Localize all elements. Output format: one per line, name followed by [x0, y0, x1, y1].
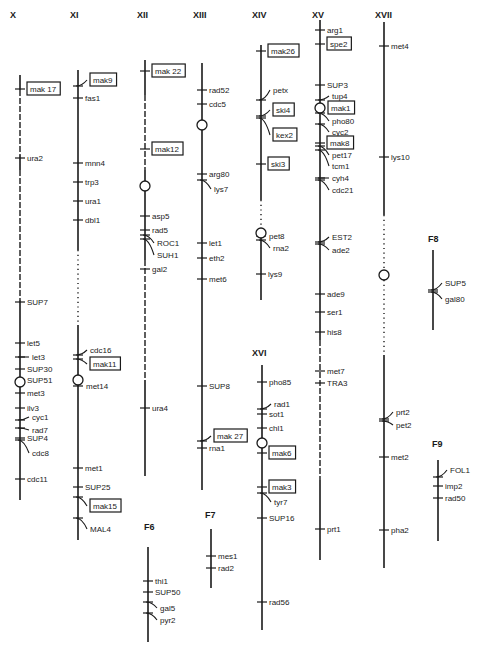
chromosome-label: XIV — [252, 10, 267, 20]
gene-label: ade9 — [327, 290, 345, 299]
gene-label: pet17 — [332, 151, 353, 160]
gene-label: pho85 — [269, 378, 292, 387]
gene-locus: let1 — [197, 239, 222, 248]
chromosome-xvii: XVIImet4lys10prt2pet2met2pha2 — [375, 10, 412, 568]
gene-label: kex2 — [276, 131, 293, 140]
gene-locus: mak26 — [256, 44, 299, 57]
gene-label: tcm1 — [332, 162, 350, 171]
gene-label: rna1 — [209, 444, 226, 453]
gene-locus: let5 — [15, 339, 40, 348]
gene-label: SUP51 — [27, 376, 53, 385]
gene-label: SUP16 — [269, 514, 295, 523]
gene-label: pyr2 — [160, 616, 176, 625]
gene-locus: trp3 — [73, 178, 99, 187]
gene-label: lys9 — [268, 270, 283, 279]
gene-label: SUP7 — [27, 298, 48, 307]
gene-label: arg1 — [327, 26, 344, 35]
gene-label: met7 — [327, 367, 345, 376]
gene-label: mak15 — [93, 502, 118, 511]
gene-label: rad1 — [274, 400, 291, 409]
gene-locus: ROC1 — [140, 235, 180, 248]
gene-label: SUP8 — [209, 382, 230, 391]
gene-label: cdc16 — [90, 346, 112, 355]
centromere-icon — [315, 103, 325, 113]
gene-label: lys7 — [214, 185, 229, 194]
chromosome-f8: F8SUP5gal80 — [428, 234, 466, 330]
gene-locus: chl1 — [257, 424, 284, 433]
gene-label: EST2 — [332, 233, 353, 242]
gene-label: mak6 — [272, 449, 292, 458]
gene-label: rad2 — [218, 564, 235, 573]
gene-locus: mak15 — [73, 497, 121, 512]
gene-label: ura1 — [85, 197, 102, 206]
gene-label: prt1 — [327, 525, 341, 534]
gene-label: met6 — [209, 275, 227, 284]
gene-locus: mak 17 — [15, 82, 60, 95]
gene-label: arg80 — [209, 170, 230, 179]
gene-locus: mak11 — [73, 357, 120, 370]
chromosome-xii: XIImak 22mak12asp5rad5ROC1SUH1gal2ura4 — [137, 10, 185, 476]
chromosome-label: F9 — [432, 439, 443, 449]
chromosome-label: XIII — [193, 10, 207, 20]
gene-locus: prt1 — [315, 525, 341, 534]
gene-locus: kex2 — [256, 118, 297, 141]
gene-label: let1 — [209, 239, 222, 248]
gene-label: ski3 — [271, 160, 286, 169]
gene-locus: mak 27 — [197, 429, 247, 442]
gene-label: rna2 — [273, 244, 290, 253]
chromosome-label: XV — [312, 10, 324, 20]
gene-label: petx — [273, 86, 288, 95]
chromosome-label: XI — [70, 10, 79, 20]
gene-label: gal5 — [160, 604, 176, 613]
gene-label: cyc1 — [32, 413, 49, 422]
gene-label: mak 22 — [155, 67, 182, 76]
gene-label: mak11 — [93, 360, 117, 369]
chromosome-xvi: XVIpho85rad1sot1chl1mak6mak3tyr7SUP16rad… — [252, 348, 296, 630]
gene-label: pha2 — [391, 526, 409, 535]
gene-label: SUP5 — [445, 279, 466, 288]
gene-locus: lys9 — [256, 270, 283, 279]
gene-label: rad56 — [269, 598, 290, 607]
centromere-icon — [197, 120, 207, 130]
gene-label: mes1 — [218, 552, 238, 561]
gene-label: met1 — [85, 464, 103, 473]
gene-label: chl1 — [269, 424, 284, 433]
gene-locus: mak 22 — [140, 64, 185, 77]
gene-label: ski4 — [276, 106, 291, 115]
gene-label: rad5 — [152, 226, 169, 235]
gene-label: ade2 — [332, 246, 350, 255]
gene-label: MAL4 — [90, 525, 111, 534]
chromosome-label: XII — [137, 10, 148, 20]
gene-label: gal2 — [152, 265, 168, 274]
chromosome-f6: F6thi1SUP50gal5pyr2 — [143, 522, 181, 642]
gene-label: met14 — [86, 382, 109, 391]
centromere-icon — [73, 375, 83, 385]
chromosome-label: F8 — [428, 234, 439, 244]
gene-label: ROC1 — [157, 239, 180, 248]
gene-label: let3 — [32, 353, 45, 362]
centromere-icon — [257, 438, 267, 448]
chromosome-label: X — [10, 10, 16, 20]
gene-label: met3 — [27, 389, 45, 398]
gene-locus: ilv3 — [15, 404, 40, 413]
gene-label: met4 — [391, 42, 409, 51]
gene-label: mak8 — [330, 139, 350, 148]
gene-label: ura4 — [152, 404, 169, 413]
gene-label: cdc5 — [209, 100, 226, 109]
gene-label: let5 — [27, 339, 40, 348]
gene-label: mak1 — [331, 104, 351, 113]
gene-label: ilv3 — [27, 404, 40, 413]
gene-locus: gal2 — [140, 265, 168, 274]
gene-label: mak 17 — [30, 85, 57, 94]
gene-label: prt2 — [396, 408, 410, 417]
chromosome-label: F7 — [205, 510, 216, 520]
chromosome-xiv: XIVmak26petxski4kex2ski3pet8rna2lys9 — [252, 10, 299, 300]
gene-locus: thi1 — [143, 577, 168, 586]
centromere-icon — [379, 270, 389, 280]
gene-label: lys10 — [391, 153, 410, 162]
gene-label: trp3 — [85, 178, 99, 187]
chromosome-label: XVI — [252, 348, 267, 358]
chromosome-label: XVII — [375, 10, 392, 20]
gene-label: pet8 — [269, 232, 285, 241]
gene-label: gal80 — [445, 295, 465, 304]
